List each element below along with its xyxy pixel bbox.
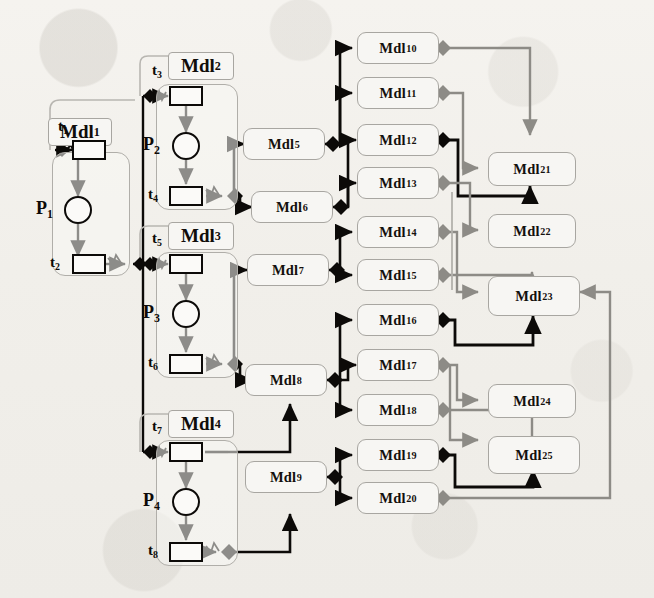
t5-sub: 5 (157, 237, 162, 248)
module-label-mdl1-sub: 1 (94, 125, 100, 140)
node-mdl20-sub: 20 (406, 493, 417, 504)
node-mdl16[interactable]: Mdl16 (357, 304, 439, 336)
node-mdl19[interactable]: Mdl19 (357, 439, 439, 471)
node-mdl15[interactable]: Mdl15 (357, 259, 439, 291)
node-mdl7[interactable]: Mdl7 (247, 254, 329, 286)
node-mdl20[interactable]: Mdl20 (357, 482, 439, 514)
module-label-mdl2-sub: 2 (215, 59, 221, 74)
node-mdl18-sub: 18 (406, 405, 417, 416)
module-label-mdl3-text: Mdl (181, 225, 215, 247)
node-mdl21[interactable]: Mdl21 (488, 152, 576, 186)
node-mdl12-text: Mdl (379, 132, 405, 149)
place-p3 (172, 300, 200, 328)
transition-t7 (169, 442, 203, 462)
module-label-mdl3-sub: 3 (215, 229, 221, 244)
t6-sub: 6 (153, 361, 158, 372)
node-mdl17[interactable]: Mdl17 (357, 349, 439, 381)
transition-t1 (72, 140, 106, 160)
module-label-mdl2-text: Mdl (181, 55, 215, 77)
node-mdl5[interactable]: Mdl5 (243, 128, 325, 160)
place-p4 (172, 488, 200, 516)
node-mdl24-sub: 24 (540, 396, 551, 407)
place-p3-label: P3 (143, 302, 160, 326)
transition-t3 (169, 86, 203, 106)
node-mdl17-text: Mdl (379, 357, 405, 374)
node-mdl19-text: Mdl (379, 447, 405, 464)
module-label-mdl2: Mdl2 (168, 52, 234, 80)
module-label-mdl4-text: Mdl (181, 413, 215, 435)
node-mdl22[interactable]: Mdl22 (488, 214, 576, 248)
transition-t8 (169, 542, 203, 562)
transition-t6 (169, 354, 203, 374)
place-p2 (172, 132, 200, 160)
place-p1-label: P1 (36, 198, 53, 222)
node-mdl11[interactable]: Mdl11 (357, 77, 439, 109)
transition-t1-label: t1 (58, 118, 68, 136)
node-mdl25[interactable]: Mdl25 (488, 436, 580, 474)
transition-t6-label: t6 (148, 354, 158, 372)
node-mdl5-text: Mdl (268, 136, 294, 153)
t4-sub: 4 (153, 193, 158, 204)
node-mdl8-sub: 8 (297, 375, 302, 386)
t8-sub: 8 (153, 549, 158, 560)
p3-sub: 3 (154, 311, 160, 325)
node-mdl10-text: Mdl (379, 40, 405, 57)
diagram-canvas: Mdl1 Mdl2 Mdl3 Mdl4 t1 P1 t2 t3 P2 t4 t5… (0, 0, 654, 598)
node-mdl5-sub: 5 (295, 139, 300, 150)
node-mdl24[interactable]: Mdl24 (488, 384, 576, 418)
place-p1 (64, 196, 92, 224)
node-mdl23-sub: 23 (542, 291, 553, 302)
t2-sub: 2 (55, 261, 60, 272)
node-mdl23-text: Mdl (515, 288, 541, 305)
node-mdl18-text: Mdl (379, 402, 405, 419)
node-mdl15-sub: 15 (406, 270, 417, 281)
transition-t4 (169, 186, 203, 206)
transition-t3-label: t3 (152, 62, 162, 80)
node-mdl24-text: Mdl (513, 393, 539, 410)
node-mdl9[interactable]: Mdl9 (245, 461, 327, 493)
node-mdl14[interactable]: Mdl14 (357, 216, 439, 248)
node-mdl22-sub: 22 (540, 226, 551, 237)
node-mdl22-text: Mdl (513, 223, 539, 240)
node-mdl6-sub: 6 (303, 202, 308, 213)
node-mdl9-sub: 9 (297, 472, 302, 483)
place-p4-label: P4 (143, 490, 160, 514)
node-mdl8[interactable]: Mdl8 (245, 364, 327, 396)
p2-sub: 2 (154, 143, 160, 157)
node-mdl18[interactable]: Mdl18 (357, 394, 439, 426)
node-mdl11-text: Mdl (380, 85, 406, 102)
node-mdl13[interactable]: Mdl13 (357, 167, 439, 199)
node-mdl7-text: Mdl (272, 262, 298, 279)
node-mdl13-text: Mdl (379, 175, 405, 192)
node-mdl21-text: Mdl (513, 161, 539, 178)
place-p2-label: P2 (143, 134, 160, 158)
module-label-mdl4-sub: 4 (215, 417, 221, 432)
transition-t8-label: t8 (148, 542, 158, 560)
node-mdl19-sub: 19 (406, 450, 417, 461)
node-mdl23[interactable]: Mdl23 (488, 276, 580, 316)
node-mdl20-text: Mdl (379, 490, 405, 507)
node-mdl14-text: Mdl (379, 224, 405, 241)
node-mdl12[interactable]: Mdl12 (357, 124, 439, 156)
node-mdl8-text: Mdl (270, 372, 296, 389)
node-mdl14-sub: 14 (406, 227, 417, 238)
p4-text: P (143, 490, 154, 510)
node-mdl10-sub: 10 (406, 43, 417, 54)
node-mdl7-sub: 7 (299, 265, 304, 276)
p4-sub: 4 (154, 499, 160, 513)
node-mdl6[interactable]: Mdl6 (251, 191, 333, 223)
p3-text: P (143, 302, 154, 322)
node-mdl17-sub: 17 (406, 360, 417, 371)
node-mdl11-sub: 11 (406, 88, 416, 99)
node-mdl10[interactable]: Mdl10 (357, 32, 439, 64)
node-mdl13-sub: 13 (406, 178, 417, 189)
transition-t4-label: t4 (148, 186, 158, 204)
transition-t2 (72, 254, 106, 274)
node-mdl9-text: Mdl (270, 469, 296, 486)
node-mdl15-text: Mdl (379, 267, 405, 284)
node-mdl16-text: Mdl (379, 312, 405, 329)
transition-t7-label: t7 (152, 418, 162, 436)
module-label-mdl3: Mdl3 (168, 222, 234, 250)
p1-sub: 1 (47, 207, 53, 221)
node-mdl12-sub: 12 (406, 135, 417, 146)
